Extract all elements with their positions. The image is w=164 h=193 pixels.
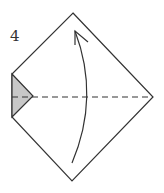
step-number-label: 4 <box>10 29 20 44</box>
origami-diagram <box>0 0 164 193</box>
